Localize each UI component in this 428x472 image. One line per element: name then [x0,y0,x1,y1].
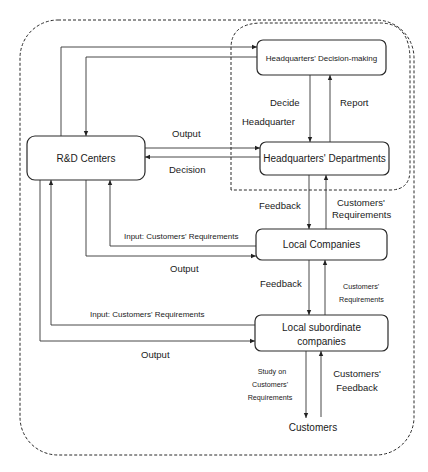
label-study-2: Customers' [252,380,289,389]
label-input-local: Input: Customers' Requirements [124,232,238,241]
node-hq-decision-label: Headquarters' Decision-making [266,54,377,63]
node-hq-departments-label: Headquarters' Departments [263,153,386,164]
label-cust-feedback-1: Customers' [333,368,381,379]
node-local-subordinate-label-2: companies [297,336,345,347]
node-local-subordinate: Local subordinate companies [255,315,388,351]
node-hq-departments: Headquarters' Departments [260,142,389,175]
label-decision: Decision [169,164,205,175]
label-cust-feedback-2: Feedback [336,382,378,393]
label-feedback-local: Feedback [260,278,302,289]
label-input-sub: Input: Customers' Requirements [90,310,204,319]
organization-flow-diagram: Headquarters' Decision-making Headquarte… [0,0,428,472]
label-custreq-local-1: Customers' [343,282,380,291]
label-study-3: Requirements [248,393,293,402]
edge-input-sub-to-rd [51,180,255,325]
node-local-companies-label: Local Companies [283,239,360,250]
label-output-local: Output [170,263,199,274]
node-local-companies: Local Companies [256,229,387,260]
label-custreq-hq-1: Customers' [337,197,385,208]
label-custreq-hq-2: Requirements [332,209,391,220]
node-customers-label: Customers [289,422,337,433]
headquarter-group-label: Headquarter [242,116,295,127]
label-feedback-hq: Feedback [259,200,301,211]
label-study-1: Study on [258,367,286,376]
edge-output-rd-to-local [86,180,256,256]
node-local-subordinate-label-1: Local subordinate [282,322,361,333]
label-output-sub: Output [141,349,170,360]
label-report: Report [340,97,369,108]
label-decide: Decide [270,97,300,108]
edge-rd-to-hq-decision [61,47,257,136]
node-rd-centers-label: R&D Centers [57,153,116,164]
label-custreq-local-2: Requirements [339,295,384,304]
node-rd-centers: R&D Centers [27,136,145,180]
label-output-hq: Output [172,128,201,139]
node-hq-decision: Headquarters' Decision-making [257,40,386,75]
